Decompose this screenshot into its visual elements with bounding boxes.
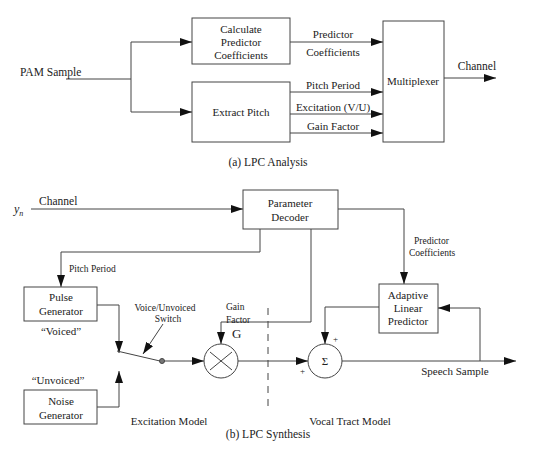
to-calc-arrow: [131, 42, 192, 79]
gain-label: Factor: [226, 315, 251, 325]
excitation-model-label: Excitation Model: [131, 415, 208, 427]
pitch-period-label-b: Pitch Period: [69, 264, 116, 274]
predictor-label: Predictor: [313, 28, 354, 40]
predictor-coeff-path: [338, 209, 404, 284]
calc-label: Coefficients: [214, 49, 268, 61]
calc-label: Calculate: [220, 23, 262, 35]
predictor-block-label: Adaptive: [388, 289, 428, 301]
predictor-block-label: Linear: [394, 302, 423, 314]
switch-arm: [117, 351, 160, 361]
predictor-coeff-label: Coefficients: [409, 248, 456, 258]
channel-in-label: Channel: [39, 195, 77, 207]
voiced-label: “Voiced”: [41, 325, 81, 337]
predictor-block-label: Predictor: [388, 315, 429, 327]
sigma-symbol: Σ: [322, 355, 328, 367]
switch-label: Voice/Unvoiced: [134, 303, 195, 313]
decoder-label: Decoder: [271, 211, 309, 223]
channel-out-label: Channel: [458, 60, 496, 72]
predictor-coeff-label: Predictor: [414, 236, 450, 246]
gain-factor-label: Gain Factor: [307, 120, 360, 132]
vocal-tract-model-label: Vocal Tract Model: [309, 415, 391, 427]
speech-sample-label: Speech Sample: [421, 365, 489, 377]
switch-pivot: [160, 359, 165, 364]
noise-label: Generator: [39, 409, 83, 421]
lpc-diagram: PAM Sample Calculate Predictor Coefficie…: [0, 0, 534, 451]
feedback-path: [438, 308, 480, 361]
pulse-to-switch: [97, 305, 119, 353]
to-pitch-arrow: [131, 79, 192, 112]
noise-to-switch: [97, 371, 119, 407]
parameter-decoder-block: [243, 190, 338, 229]
noise-label: Noise: [48, 395, 74, 407]
decoder-label: Parameter: [268, 197, 313, 209]
yn-symbol: yn: [13, 202, 23, 218]
pitch-period-label: Pitch Period: [306, 79, 361, 91]
gain-label: Gain: [226, 302, 245, 312]
switch-label-pointer: [143, 324, 163, 354]
plus-left: +: [300, 366, 305, 376]
switch-label: Switch: [155, 314, 182, 324]
gain-symbol: G: [232, 326, 241, 341]
pulse-label: Pulse: [49, 291, 73, 303]
analysis-caption: (a) LPC Analysis: [228, 156, 308, 169]
excitation-label: Excitation (V/U): [296, 101, 371, 114]
coefficients-label: Coefficients: [306, 46, 360, 58]
pitch-period-path: [61, 229, 260, 287]
unvoiced-label: “Unvoiced”: [32, 374, 85, 386]
pulse-label: Generator: [39, 305, 83, 317]
pam-sample-label: PAM Sample: [20, 66, 81, 79]
multiplexer-label: Multiplexer: [387, 75, 439, 87]
calc-label: Predictor: [221, 36, 262, 48]
plus-top: +: [333, 334, 338, 344]
extract-pitch-label: Extract Pitch: [212, 106, 270, 118]
synthesis-caption: (b) LPC Synthesis: [226, 428, 311, 441]
